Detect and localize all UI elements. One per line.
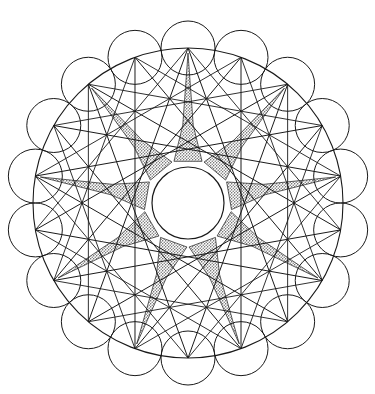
center-hub bbox=[152, 167, 224, 239]
star-point bbox=[137, 237, 187, 344]
star-point bbox=[174, 53, 202, 161]
center-hub-circle bbox=[152, 167, 224, 239]
rosette-drawing bbox=[0, 0, 375, 394]
star-point bbox=[189, 237, 239, 344]
figure-root bbox=[0, 0, 375, 394]
